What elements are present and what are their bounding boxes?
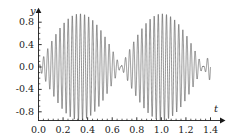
- x-tick-label: 0.6: [105, 125, 120, 135]
- y-axis-ticks: [39, 22, 42, 112]
- x-tick-label: 1.4: [203, 125, 218, 135]
- curve-fill-group: [39, 14, 211, 120]
- y-tick-label: 0.8: [0, 17, 34, 27]
- y-axis-arrowhead: [36, 8, 42, 13]
- x-axis-name: t: [214, 104, 218, 114]
- plot-canvas: [0, 0, 228, 140]
- y-tick-label: 0.0: [0, 62, 34, 72]
- oscillation-curve: [39, 14, 211, 120]
- y-axis-name: y: [30, 6, 36, 16]
- x-tick-label: 1.2: [178, 125, 193, 135]
- x-tick-label: 0.4: [80, 125, 95, 135]
- y-tick-label: 0.4: [0, 40, 34, 50]
- x-axis-ticks: [39, 117, 211, 120]
- x-tick-label: 1.0: [154, 125, 169, 135]
- x-axis-arrowhead: [220, 118, 226, 124]
- x-tick-label: 0.8: [129, 125, 144, 135]
- y-tick-label: -0.8: [0, 107, 34, 117]
- x-tick-label: 0.0: [31, 125, 46, 135]
- beat-pattern-chart: 0.00.20.40.60.81.01.21.4 0.80.40.0-0.4-0…: [0, 0, 228, 140]
- x-tick-label: 0.2: [56, 125, 71, 135]
- y-tick-label: -0.4: [0, 85, 34, 95]
